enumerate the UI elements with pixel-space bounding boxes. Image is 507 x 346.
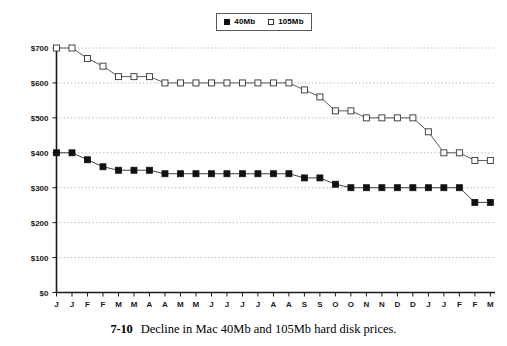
filled-square-marker bbox=[301, 175, 307, 181]
open-square-marker bbox=[472, 157, 478, 163]
filled-square-marker bbox=[100, 164, 106, 170]
x-tick-label: S bbox=[317, 300, 323, 309]
y-tick-label: $600 bbox=[31, 79, 49, 88]
x-tick-label: M bbox=[193, 300, 200, 309]
series-line bbox=[57, 153, 491, 203]
x-tick-label: N bbox=[379, 300, 385, 309]
filled-square-marker bbox=[208, 171, 214, 177]
y-tick-label: $100 bbox=[31, 254, 49, 263]
figure-caption: 7-10Decline in Mac 40Mb and 105Mb hard d… bbox=[0, 322, 507, 337]
x-tick-label: D bbox=[394, 300, 400, 309]
filled-square-marker bbox=[472, 199, 478, 205]
filled-square-marker bbox=[410, 185, 416, 191]
filled-square-marker bbox=[487, 199, 493, 205]
x-tick-label: J bbox=[240, 300, 244, 309]
filled-square-marker bbox=[69, 150, 75, 156]
series-40mb bbox=[54, 150, 494, 206]
data-series-layer bbox=[54, 45, 494, 205]
open-square-marker bbox=[379, 115, 385, 121]
x-tick-label: F bbox=[457, 300, 462, 309]
grid-lines bbox=[57, 48, 496, 258]
filled-square-marker bbox=[348, 185, 354, 191]
open-square-marker bbox=[208, 80, 214, 86]
open-square-marker bbox=[115, 74, 121, 80]
open-square-marker bbox=[441, 150, 447, 156]
filled-square-marker bbox=[425, 185, 431, 191]
open-square-marker bbox=[270, 80, 276, 86]
x-tick-label: A bbox=[286, 300, 292, 309]
filled-square-marker bbox=[317, 175, 323, 181]
open-square-marker bbox=[177, 80, 183, 86]
filled-square-marker bbox=[54, 150, 60, 156]
filled-square-marker bbox=[162, 171, 168, 177]
filled-square-marker bbox=[441, 185, 447, 191]
y-axis-tick-labels: $0$100$200$300$400$500$600$700 bbox=[31, 44, 49, 298]
y-tick-label: $700 bbox=[31, 44, 49, 53]
x-tick-label: M bbox=[177, 300, 184, 309]
figure-container: 40Mb 105Mb $0$100$200$300$400$500$600$70… bbox=[0, 0, 507, 346]
y-tick-label: $200 bbox=[31, 219, 49, 228]
filled-square-marker bbox=[456, 185, 462, 191]
x-tick-label: O bbox=[348, 300, 354, 309]
filled-square-marker bbox=[177, 171, 183, 177]
open-square-marker bbox=[100, 63, 106, 69]
x-tick-label: D bbox=[410, 300, 416, 309]
filled-square-marker bbox=[224, 171, 230, 177]
filled-square-marker bbox=[84, 157, 90, 163]
x-tick-label: O bbox=[332, 300, 338, 309]
filled-square-marker bbox=[363, 185, 369, 191]
open-square-marker bbox=[487, 157, 493, 163]
y-tick-label: $0 bbox=[40, 289, 49, 298]
x-tick-label: A bbox=[147, 300, 153, 309]
open-square-marker bbox=[69, 45, 75, 51]
open-square-marker bbox=[224, 80, 230, 86]
x-tick-label: F bbox=[472, 300, 477, 309]
x-tick-label: A bbox=[271, 300, 277, 309]
caption-text: Decline in Mac 40Mb and 105Mb hard disk … bbox=[141, 322, 397, 336]
open-square-marker bbox=[54, 45, 60, 51]
x-tick-label: J bbox=[442, 300, 446, 309]
open-square-marker bbox=[84, 55, 90, 61]
open-square-marker bbox=[146, 74, 152, 80]
filled-square-marker bbox=[255, 171, 261, 177]
x-tick-label: S bbox=[302, 300, 308, 309]
line-chart: $0$100$200$300$400$500$600$700 JJFFMMAAM… bbox=[0, 0, 507, 346]
open-square-marker bbox=[363, 115, 369, 121]
open-square-marker bbox=[255, 80, 261, 86]
x-tick-label: A bbox=[162, 300, 168, 309]
series-105mb bbox=[54, 45, 494, 163]
filled-square-marker bbox=[394, 185, 400, 191]
x-tick-label: J bbox=[426, 300, 430, 309]
series-line bbox=[57, 48, 491, 160]
x-tick-label: M bbox=[487, 300, 494, 309]
filled-square-marker bbox=[239, 171, 245, 177]
filled-square-marker bbox=[286, 171, 292, 177]
x-tick-label: J bbox=[70, 300, 74, 309]
x-tick-label: J bbox=[54, 300, 58, 309]
x-tick-label: J bbox=[209, 300, 213, 309]
x-tick-label: M bbox=[115, 300, 122, 309]
caption-number: 7-10 bbox=[111, 322, 133, 336]
open-square-marker bbox=[332, 108, 338, 114]
filled-square-marker bbox=[146, 167, 152, 173]
x-axis-tick-labels: JJFFMMAAMMJJJJAASSOONNDDJJFFM bbox=[54, 300, 494, 309]
x-tick-label: J bbox=[225, 300, 229, 309]
open-square-marker bbox=[410, 115, 416, 121]
open-square-marker bbox=[425, 129, 431, 135]
open-square-marker bbox=[348, 108, 354, 114]
filled-square-marker bbox=[379, 185, 385, 191]
open-square-marker bbox=[131, 74, 137, 80]
x-tick-label: F bbox=[101, 300, 106, 309]
y-tick-label: $300 bbox=[31, 184, 49, 193]
filled-square-marker bbox=[332, 181, 338, 187]
open-square-marker bbox=[162, 80, 168, 86]
filled-square-marker bbox=[193, 171, 199, 177]
x-tick-label: N bbox=[364, 300, 370, 309]
x-tick-label: M bbox=[131, 300, 138, 309]
filled-square-marker bbox=[115, 167, 121, 173]
open-square-marker bbox=[317, 94, 323, 100]
open-square-marker bbox=[394, 115, 400, 121]
open-square-marker bbox=[456, 150, 462, 156]
y-tick-label: $500 bbox=[31, 114, 49, 123]
x-tick-label: F bbox=[85, 300, 90, 309]
